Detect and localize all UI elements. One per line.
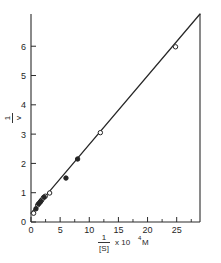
x-axis-title-denominator: [S] [99,244,109,253]
x-tick-label: 5 [58,225,63,235]
data-point-filled [64,176,68,180]
x-tick-label: 15 [113,225,123,235]
y-tick-label: 0 [21,217,26,227]
y-tick-label: 6 [21,42,26,52]
data-point-open [31,211,35,215]
x-tick-label: 0 [28,225,33,235]
lineweaver-burk-figure: 0510152025 0123456 1 [S] x 10 4 M 1 v [0,0,221,263]
y-tick-label: 5 [21,71,26,81]
chart-canvas: 0510152025 0123456 1 [S] x 10 4 M 1 v [0,0,221,263]
figure-background [0,0,221,263]
data-point-open [47,191,51,195]
x-tick-label: 25 [172,225,182,235]
y-axis-title-numerator: 1 [3,115,12,120]
data-point-filled [42,195,46,199]
x-tick-label: 20 [143,225,153,235]
data-point-open [98,130,102,134]
y-tick-label: 1 [21,188,26,198]
x-axis-title-numerator: 1 [102,233,107,242]
data-point-filled [38,199,42,203]
x-tick-label: 10 [84,225,94,235]
data-point-filled [75,157,79,161]
y-axis-title-denominator: v [14,116,23,120]
y-tick-label: 4 [21,100,26,110]
y-tick-label: 3 [21,130,26,140]
data-point-filled [34,207,38,211]
y-tick-label: 2 [21,159,26,169]
x-axis-title-units: M [142,238,149,247]
x-axis-title-multiplier: x 10 [115,238,131,247]
data-point-open [173,45,177,49]
